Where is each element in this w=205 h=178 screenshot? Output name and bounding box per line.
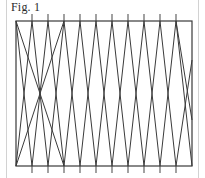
zigzag-segment bbox=[176, 21, 192, 166]
zigzag-segment bbox=[176, 21, 192, 120]
figure-page: Fig. 1 bbox=[0, 0, 205, 178]
zigzag-segment bbox=[176, 60, 192, 166]
zigzag-line-group bbox=[16, 21, 192, 166]
figure-diagram bbox=[0, 0, 205, 178]
